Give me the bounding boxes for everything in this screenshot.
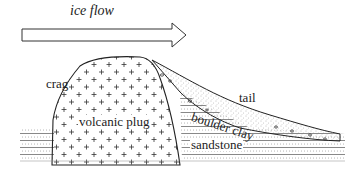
ice-flow-label: ice flow [70, 4, 114, 18]
volcanic-plug [52, 57, 180, 165]
tail-label: tail [239, 91, 256, 104]
sandstone-left [20, 128, 54, 161]
sandstone-label: sandstone [190, 138, 243, 151]
crag-label: crag [46, 77, 68, 90]
volcanic-plug-label: volcanic plug [78, 115, 150, 128]
ice-flow-arrow-icon [22, 23, 186, 47]
